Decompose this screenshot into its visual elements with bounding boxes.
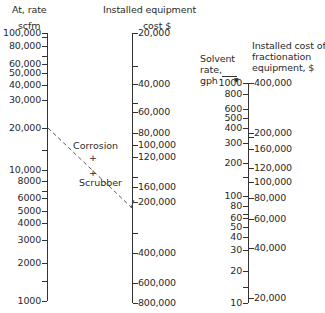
nomograph: At, rate scfm Installed equipment cost $… <box>0 0 325 313</box>
corrosion-plus-marker: + <box>89 152 97 163</box>
scrubber-label: Scrubber <box>79 177 122 188</box>
corrosion-label: Corrosion <box>73 140 118 151</box>
example-dashed-line <box>0 0 325 313</box>
